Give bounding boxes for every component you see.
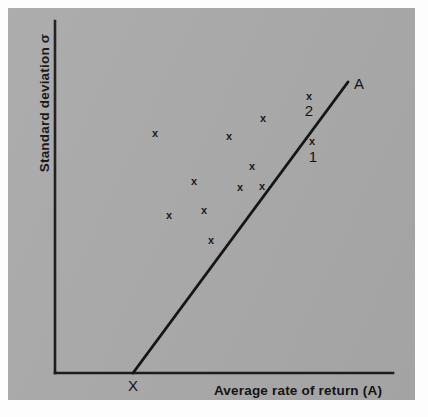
scatter-marker: x [191,175,198,187]
scatter-marker: x [166,209,173,221]
scatter-marker: x [152,127,159,139]
scatter-plot: x x x x x x x x x x x 2 x 1 A X Average … [8,8,415,400]
figure-root: x x x x x x x x x x x 2 x 1 A X Average … [0,0,428,417]
scatter-marker: x [237,181,244,193]
reference-line-a [133,82,348,373]
chart-plate: x x x x x x x x x x x 2 x 1 A X Average … [8,8,415,400]
scatter-marker: x [249,160,256,172]
y-axis-title: Standard deviation σ [37,34,52,173]
x-intercept-label: X [128,377,138,394]
line-top-label-a: A [354,75,364,92]
annotation-label-2: 2 [305,102,313,119]
scatter-marker-labelled-1: x [309,135,316,147]
scatter-marker: x [208,234,215,246]
scatter-marker: x [259,180,266,192]
scatter-marker: x [226,130,233,142]
scatter-marker-labelled-2: x [306,90,313,102]
scatter-marker: x [201,204,208,216]
scatter-marker: x [260,112,267,124]
x-axis-title: Average rate of return (A) [214,383,382,398]
annotation-label-1: 1 [309,148,317,165]
